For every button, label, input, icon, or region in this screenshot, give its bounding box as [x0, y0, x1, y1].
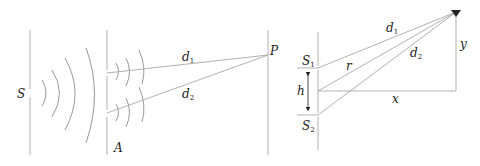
- double-slit-diagram: S A P d1 d2 S1 S2 h r x y d1 d2: [0, 0, 480, 166]
- label-r: r: [346, 59, 353, 73]
- right-panel: S1 S2 h r x y d1 d2: [297, 10, 467, 150]
- label-source: S: [17, 87, 25, 101]
- label-d1-right: d1: [386, 21, 398, 36]
- label-y: y: [459, 37, 467, 51]
- slit2-wavefront-1: [116, 104, 119, 121]
- label-point-p: P: [269, 44, 279, 58]
- label-aperture: A: [113, 141, 123, 155]
- label-x: x: [392, 92, 399, 106]
- left-panel: S A P d1 d2: [17, 30, 279, 155]
- wavefront-2: [52, 70, 60, 117]
- label-h: h: [297, 84, 305, 98]
- label-d2-left: d2: [182, 87, 194, 102]
- slit1-wavefront-2: [126, 58, 130, 86]
- slit2-wavefront-2: [126, 98, 130, 127]
- wavefront-3: [65, 58, 75, 130]
- wavefront-4: [86, 48, 95, 143]
- label-d2-right: d2: [410, 46, 422, 61]
- slit1-wavefront-3: [139, 50, 144, 84]
- label-s1: S1: [302, 54, 315, 69]
- slit2-wavefront-3: [139, 87, 144, 122]
- label-s2: S2: [302, 119, 315, 134]
- label-d1-left: d1: [182, 50, 194, 65]
- wavefront-1: [42, 80, 46, 106]
